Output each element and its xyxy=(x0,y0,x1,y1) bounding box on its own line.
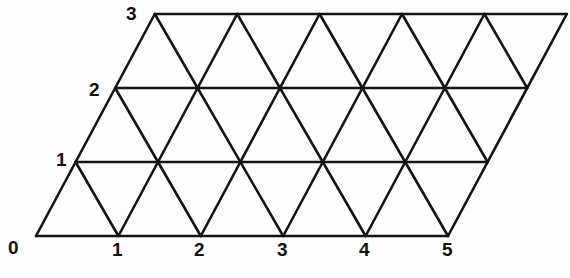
axis-label-y-1: 1 xyxy=(56,150,67,169)
axis-label-x-3: 3 xyxy=(277,240,288,259)
axis-label-x-2: 2 xyxy=(194,240,205,259)
triangular-lattice-svg xyxy=(0,0,570,278)
axis-label-x-1: 1 xyxy=(112,240,123,259)
lattice-line-group xyxy=(36,14,567,236)
axis-label-x-5: 5 xyxy=(442,240,453,259)
axis-label-y-3: 3 xyxy=(126,4,137,23)
figure-canvas: 0 1 2 3 4 5 1 2 3 xyxy=(0,0,570,278)
lattice-line-falling-7 xyxy=(484,14,527,88)
lattice-line-falling-1 xyxy=(76,162,119,236)
axis-label-x-4: 4 xyxy=(359,240,370,259)
axis-label-origin-0: 0 xyxy=(8,238,19,257)
axis-label-y-2: 2 xyxy=(89,80,100,99)
